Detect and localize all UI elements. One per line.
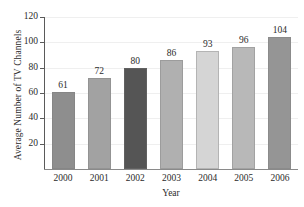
x-tick-label: 2004: [190, 173, 226, 184]
bar: [52, 92, 75, 169]
y-tick-label: 120: [12, 12, 38, 22]
bar-value-label: 86: [167, 48, 177, 58]
bars-group: 617280869396104: [45, 17, 298, 169]
bar-chart-figure: Average Number of TV Channels 2040608010…: [0, 0, 304, 207]
x-axis-label: Year: [44, 188, 298, 199]
x-tick-label: 2000: [45, 173, 81, 184]
bar-value-label: 61: [58, 80, 68, 90]
bar-column: 96: [226, 17, 262, 169]
y-tick-label: 80: [12, 63, 38, 73]
y-tick-label: 60: [12, 88, 38, 98]
bar-value-label: 104: [273, 25, 287, 35]
bar-column: 104: [262, 17, 298, 169]
plot-area: 20406080100120 617280869396104: [44, 17, 298, 170]
bar-column: 61: [45, 17, 81, 169]
y-tick-label: 20: [12, 139, 38, 149]
x-tick-label: 2006: [262, 173, 298, 184]
bar-column: 93: [190, 17, 226, 169]
bar-value-label: 93: [203, 39, 213, 49]
x-tick-label: 2005: [226, 173, 262, 184]
bar: [232, 47, 255, 169]
x-tick-label: 2002: [117, 173, 153, 184]
y-tick-mark: [40, 42, 44, 43]
bar-value-label: 72: [94, 66, 104, 76]
chart-title: [0, 0, 304, 8]
x-axis-spine: [44, 169, 298, 170]
bar-column: 86: [153, 17, 189, 169]
bar-value-label: 80: [131, 56, 141, 66]
y-tick-mark: [40, 93, 44, 94]
y-tick-mark: [40, 118, 44, 119]
bar-value-label: 96: [239, 35, 249, 45]
y-tick-mark: [40, 144, 44, 145]
bar-column: 80: [117, 17, 153, 169]
x-axis-ticks: 2000200120022003200420052006: [45, 173, 298, 184]
bar: [124, 68, 147, 169]
bar-column: 72: [81, 17, 117, 169]
y-tick-label: 40: [12, 114, 38, 124]
x-tick-label: 2003: [153, 173, 189, 184]
y-tick-label: 100: [12, 38, 38, 48]
y-tick-mark: [40, 68, 44, 69]
bar: [88, 78, 111, 169]
bar: [196, 51, 219, 169]
bar: [160, 60, 183, 169]
bar: [268, 37, 291, 169]
x-tick-label: 2001: [81, 173, 117, 184]
y-tick-mark: [40, 17, 44, 18]
